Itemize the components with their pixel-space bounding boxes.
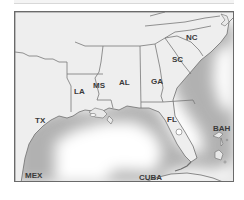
map-svg: LA MS AL GA SC NC FL TX BAH MEX CUBA [15, 12, 234, 182]
label-tx: TX [35, 116, 46, 125]
label-bah: BAH [213, 124, 231, 133]
label-la: LA [74, 87, 85, 96]
label-cuba: CUBA [139, 173, 162, 182]
label-al: AL [119, 78, 130, 87]
label-ms: MS [93, 81, 106, 90]
label-sc: SC [172, 55, 183, 64]
label-fl: FL [167, 115, 177, 124]
lake-okeechobee [176, 129, 182, 135]
label-nc: NC [186, 33, 198, 42]
top-divider [14, 0, 234, 4]
label-mex: MEX [25, 171, 43, 180]
label-ga: GA [151, 77, 163, 86]
map-frame: LA MS AL GA SC NC FL TX BAH MEX CUBA [14, 11, 234, 182]
